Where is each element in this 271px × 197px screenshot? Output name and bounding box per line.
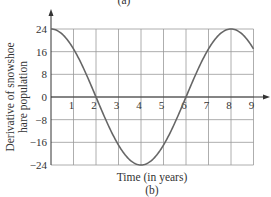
svg-text:hare population: hare population xyxy=(17,61,30,133)
y-tick-label: 16 xyxy=(36,46,48,58)
x-tick-label: 8 xyxy=(226,99,232,111)
y-tick-label: −8 xyxy=(35,114,47,126)
y-axis-label: Derivative of snowshoe hare population xyxy=(4,42,30,151)
x-tick-label: 2 xyxy=(91,99,97,111)
chart: (a) 123456789241680−8−16−24 Derivative o… xyxy=(0,0,270,197)
x-tick-label: 9 xyxy=(249,99,255,111)
x-tick-label: 4 xyxy=(136,99,142,111)
y-axis-arrow-icon xyxy=(49,9,54,16)
x-tick-label: 1 xyxy=(69,99,75,111)
axes xyxy=(49,9,271,165)
svg-text:(a): (a) xyxy=(118,0,131,7)
x-tick-label: 3 xyxy=(114,99,120,111)
svg-text:Derivative of snowshoe: Derivative of snowshoe xyxy=(4,42,16,151)
y-tick-label: 0 xyxy=(42,91,48,103)
y-tick-label: 24 xyxy=(36,23,48,35)
y-tick-label: −24 xyxy=(30,159,48,171)
x-tick-label: 7 xyxy=(204,99,210,111)
y-tick-label: 8 xyxy=(42,68,48,80)
x-axis-arrow-icon xyxy=(263,95,270,100)
x-tick-label: 5 xyxy=(159,99,165,111)
panel-label: (b) xyxy=(145,184,159,197)
y-tick-label: −16 xyxy=(30,136,48,148)
top-label: (a) xyxy=(118,0,131,7)
x-axis-label: Time (in years) xyxy=(117,171,188,184)
